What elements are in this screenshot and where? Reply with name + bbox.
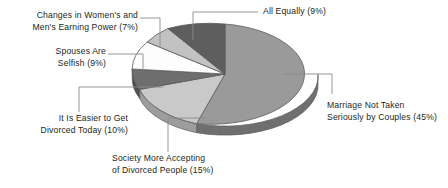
label-line: Divorced Today (10%) (8, 125, 128, 137)
label-line: It Is Easier to Get (8, 113, 128, 125)
label-line: of Divorced People (15%) (112, 165, 262, 177)
label-changes-in-earning-power: Changes in Women's and Men's Earning Pow… (8, 10, 138, 33)
pie-chart-figure: Changes in Women's and Men's Earning Pow… (0, 0, 448, 188)
label-marriage-not-taken-seriously: Marriage Not Taken Seriously by Couples … (327, 100, 447, 123)
label-line: Marriage Not Taken (327, 100, 447, 112)
label-society-more-accepting: Society More Accepting of Divorced Peopl… (112, 153, 262, 176)
label-line: Selfish (9%) (8, 58, 106, 70)
label-spouses-are-selfish: Spouses Are Selfish (9%) (8, 46, 106, 69)
label-line: Seriously by Couples (45%) (327, 112, 447, 124)
label-line: Changes in Women's and (8, 10, 138, 22)
pie-top-face (132, 23, 304, 124)
label-line: Society More Accepting (112, 153, 262, 165)
label-line: Spouses Are (8, 46, 106, 58)
label-line: Men's Earning Power (7%) (8, 22, 138, 34)
label-line: All Equally (9%) (263, 6, 383, 18)
label-all-equally: All Equally (9%) (263, 6, 383, 18)
label-it-is-easier-to-get-divorced: It Is Easier to Get Divorced Today (10%) (8, 113, 128, 136)
